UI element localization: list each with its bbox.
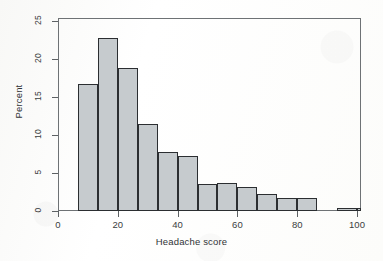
x-axis-tick bbox=[118, 211, 119, 217]
x-axis-tick-label: 60 bbox=[222, 219, 252, 230]
y-axis-tick-label: 20 bbox=[33, 46, 43, 70]
x-axis-title: Headache score bbox=[0, 236, 383, 247]
y-axis-tick bbox=[52, 21, 58, 22]
x-axis-tick bbox=[237, 211, 238, 217]
y-axis-tick bbox=[52, 173, 58, 174]
x-axis-tick-label: 100 bbox=[342, 219, 372, 230]
x-axis-tick bbox=[58, 211, 59, 217]
y-axis-tick-label: 15 bbox=[33, 84, 43, 108]
x-axis-tick bbox=[178, 211, 179, 217]
histogram-figure: 0510152025020406080100 Percent Headache … bbox=[0, 0, 383, 261]
y-axis-title: Percent bbox=[13, 72, 24, 132]
x-axis-tick-label: 80 bbox=[282, 219, 312, 230]
y-axis-tick-label: 10 bbox=[33, 122, 43, 146]
x-axis-tick bbox=[357, 211, 358, 217]
y-axis-tick-label: 0 bbox=[33, 198, 43, 222]
x-axis-tick bbox=[297, 211, 298, 217]
y-axis-tick bbox=[52, 97, 58, 98]
y-axis-tick bbox=[52, 135, 58, 136]
y-axis-tick-label: 25 bbox=[33, 8, 43, 32]
y-axis-tick bbox=[52, 59, 58, 60]
x-axis-tick-label: 20 bbox=[103, 219, 133, 230]
plot-frame bbox=[58, 18, 361, 211]
x-axis-tick-label: 40 bbox=[163, 219, 193, 230]
y-axis-tick-label: 5 bbox=[33, 160, 43, 184]
x-axis-tick-label: 0 bbox=[43, 219, 73, 230]
